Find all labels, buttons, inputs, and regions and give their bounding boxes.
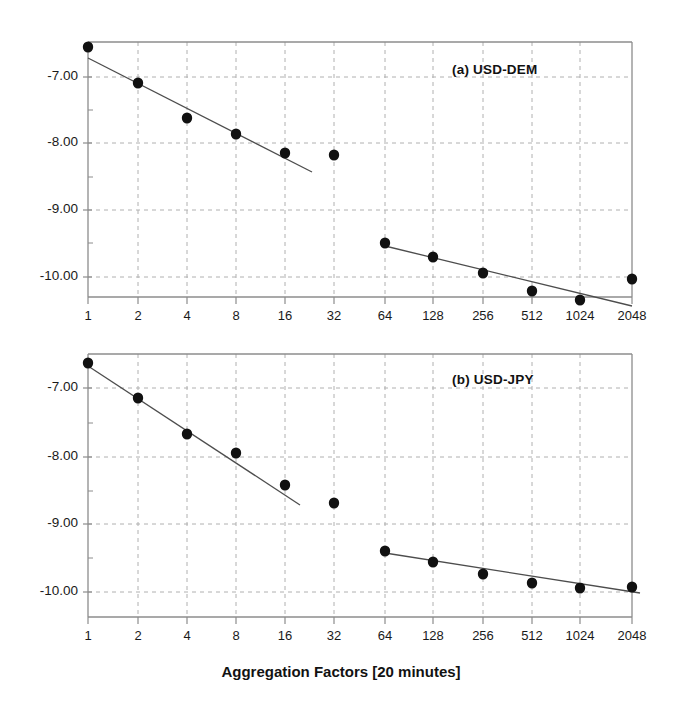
y-tick-label-b-3: -10.00: [12, 583, 78, 598]
panel-usd-jpy: (b) USD-JPY -7.00 -8.00 -9.00 -10.00 1 2…: [0, 340, 682, 708]
data-point: [478, 568, 488, 579]
x-tick-label-a-1: 2: [118, 308, 158, 323]
axis-frame: [88, 354, 632, 617]
data-point: [83, 357, 93, 368]
data-points-usd-dem: [83, 41, 637, 305]
panel-title-b: (b) USD-JPY: [452, 372, 534, 387]
grid-lines-horizontal: [88, 388, 632, 592]
data-point: [428, 556, 438, 567]
x-tick-label-b-4: 16: [265, 628, 305, 643]
y-tick-label-a-3: -10.00: [12, 268, 78, 283]
x-tick-label-a-5: 32: [314, 308, 354, 323]
data-point: [231, 447, 241, 458]
x-tick-label-b-8: 256: [458, 628, 508, 643]
data-point: [380, 237, 390, 248]
x-tick-label-a-8: 256: [458, 308, 508, 323]
plot-area-usd-jpy: [0, 340, 682, 708]
x-tick-label-a-10: 1024: [550, 308, 610, 323]
y-tick-label-a-1: -8.00: [20, 134, 78, 149]
x-tick-label-b-7: 128: [408, 628, 458, 643]
data-point: [478, 267, 488, 278]
y-axis-minor-ticks: [88, 110, 93, 243]
y-tick-label-b-2: -9.00: [20, 515, 78, 530]
x-tick-label-b-5: 32: [314, 628, 354, 643]
y-tick-label-a-0: -7.00: [20, 68, 78, 83]
y-tick-label-b-1: -8.00: [20, 448, 78, 463]
data-point: [182, 428, 192, 439]
y-axis-minor-ticks: [88, 423, 93, 558]
data-point: [627, 581, 637, 592]
data-point: [329, 497, 339, 508]
axis-frame: [88, 42, 632, 297]
x-tick-label-a-6: 64: [365, 308, 405, 323]
data-point: [133, 77, 143, 88]
data-point: [575, 294, 585, 305]
x-tick-label-a-7: 128: [408, 308, 458, 323]
data-point: [280, 479, 290, 490]
x-tick-label-b-2: 4: [167, 628, 207, 643]
data-point: [329, 149, 339, 160]
grid-lines-vertical: [138, 42, 580, 297]
data-point: [280, 147, 290, 158]
x-tick-label-a-3: 8: [216, 308, 256, 323]
x-tick-label-b-1: 2: [118, 628, 158, 643]
y-tick-label-b-0: -7.00: [20, 379, 78, 394]
plot-area-usd-dem: [0, 0, 682, 340]
x-axis-title: Aggregation Factors [20 minutes]: [0, 663, 682, 680]
x-tick-label-b-10: 1024: [550, 628, 610, 643]
data-points-usd-jpy: [83, 357, 637, 593]
panel-title-a: (a) USD-DEM: [452, 62, 537, 77]
x-tick-label-b-0: 1: [68, 628, 108, 643]
data-point: [428, 251, 438, 262]
x-axis-ticks: [88, 297, 632, 304]
x-tick-label-b-3: 8: [216, 628, 256, 643]
figure-container: (a) USD-DEM -7.00 -8.00 -9.00 -10.00 1 2…: [0, 0, 682, 708]
data-point: [83, 41, 93, 52]
x-axis-ticks: [88, 617, 632, 624]
data-point: [133, 392, 143, 403]
data-point: [380, 545, 390, 556]
x-tick-label-a-2: 4: [167, 308, 207, 323]
data-point: [182, 112, 192, 123]
regression-line-low-b: [88, 366, 300, 505]
x-tick-label-b-11: 2048: [602, 628, 662, 643]
y-tick-label-a-2: -9.00: [20, 201, 78, 216]
data-point: [527, 285, 537, 296]
data-point: [575, 582, 585, 593]
x-tick-label-a-0: 1: [68, 308, 108, 323]
data-point: [627, 273, 637, 284]
x-tick-label-a-4: 16: [265, 308, 305, 323]
data-point: [231, 128, 241, 139]
regression-line-high-b: [385, 553, 640, 593]
regression-line-low-a: [88, 58, 312, 172]
grid-lines-horizontal: [88, 77, 632, 277]
x-tick-label-b-6: 64: [365, 628, 405, 643]
data-point: [527, 577, 537, 588]
panel-usd-dem: (a) USD-DEM -7.00 -8.00 -9.00 -10.00 1 2…: [0, 0, 682, 340]
grid-lines-vertical: [138, 354, 580, 617]
x-tick-label-a-11: 2048: [602, 308, 662, 323]
